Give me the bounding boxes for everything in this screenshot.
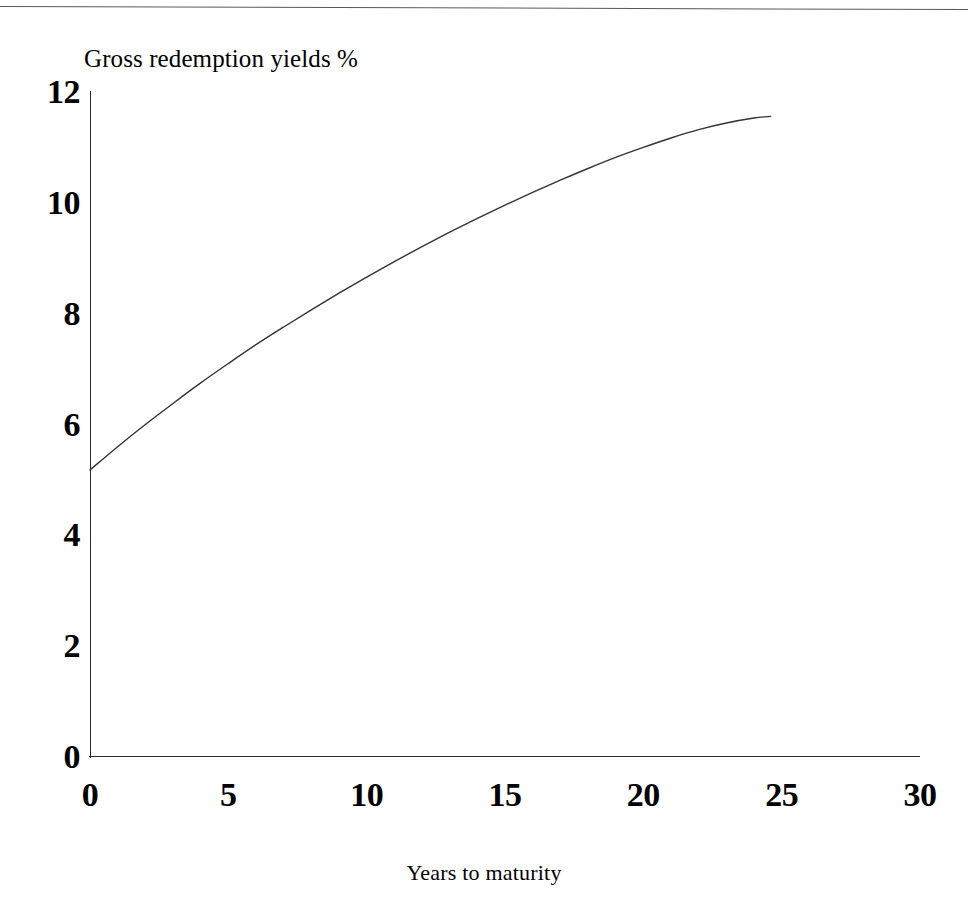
y-axis-title: Gross redemption yields % bbox=[84, 46, 358, 71]
series-line-gross-redemption-yield bbox=[90, 116, 771, 470]
y-tick-label: 6 bbox=[10, 408, 80, 442]
x-tick-label: 0 bbox=[45, 778, 135, 812]
y-axis-line bbox=[90, 91, 91, 758]
y-tick-label: 12 bbox=[10, 75, 80, 109]
y-tick-label: 8 bbox=[10, 297, 80, 331]
x-tick-label: 30 bbox=[875, 778, 965, 812]
chart-figure: Gross redemption yields % 024681012 Year… bbox=[0, 0, 968, 915]
x-axis-line bbox=[89, 756, 920, 757]
x-tick-label: 20 bbox=[598, 778, 688, 812]
y-tick-label: 2 bbox=[10, 629, 80, 663]
page-top-rule bbox=[0, 6, 968, 10]
x-tick-label: 25 bbox=[737, 778, 827, 812]
x-axis-title: Years to maturity bbox=[0, 862, 968, 884]
x-tick-label: 5 bbox=[183, 778, 273, 812]
y-tick-label: 10 bbox=[10, 186, 80, 220]
y-tick-label: 4 bbox=[10, 518, 80, 552]
x-tick-label: 10 bbox=[322, 778, 412, 812]
x-tick-label: 15 bbox=[460, 778, 550, 812]
y-tick-label: 0 bbox=[10, 740, 80, 774]
